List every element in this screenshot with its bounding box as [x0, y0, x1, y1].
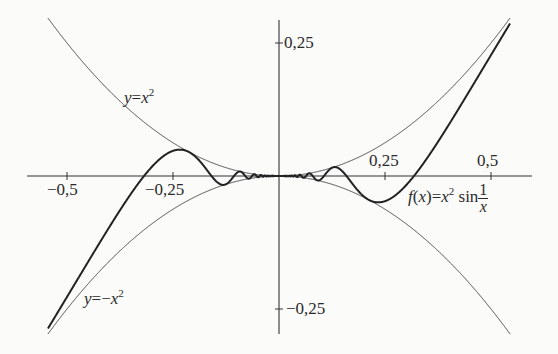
- x-tick-label-neg-0.25: −0,25: [145, 181, 184, 198]
- y-tick-label-0.25: 0,25: [284, 34, 314, 51]
- y-tick-label-neg-0.25: −0,25: [286, 300, 325, 317]
- chart: −0,5 −0,25 0,25 0,5 0,25 −0,25 y=x2 y=−x…: [0, 0, 558, 354]
- x-tick-label-0.25: 0,25: [369, 152, 399, 169]
- label-y-equals-x-squared: y=x2: [124, 87, 154, 106]
- fraction-one-over-x: 1x: [478, 182, 488, 215]
- label-f-x-formula: f(x)=x2 sin1x: [408, 182, 488, 215]
- x-tick-label-0.5: 0,5: [477, 152, 498, 169]
- x-tick-label-neg-0.5: −0,5: [47, 181, 78, 198]
- label-y-equals-neg-x-squared: y=−x2: [84, 288, 124, 307]
